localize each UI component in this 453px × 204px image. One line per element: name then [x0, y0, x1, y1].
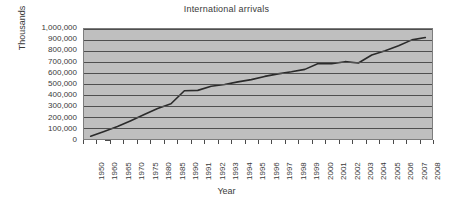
- y-axis-tick-label: 1,000,000: [41, 24, 77, 32]
- gridline: [84, 106, 432, 107]
- x-axis-tick-label: 1965: [124, 146, 133, 180]
- x-axis-tick-label: 1950: [97, 146, 106, 180]
- gridline: [84, 51, 432, 52]
- y-axis-tick-label: 700,000: [48, 58, 77, 66]
- y-axis-tick-label: 300,000: [48, 102, 77, 110]
- y-axis-tick-label: 400,000: [48, 91, 77, 99]
- x-axis-tick-label: 2006: [406, 146, 415, 180]
- x-axis-tick-mark: [204, 140, 205, 144]
- gridline: [84, 128, 432, 129]
- gridline: [84, 62, 432, 63]
- y-axis-tick-label: 600,000: [48, 69, 77, 77]
- x-axis-tick-label: 1995: [258, 146, 267, 180]
- x-axis-tick-mark: [325, 140, 326, 144]
- x-axis-tick-mark: [177, 140, 178, 144]
- x-axis-tick-mark: [164, 140, 165, 144]
- y-axis-tick-label: 900,000: [48, 35, 77, 43]
- x-axis-tick-label: 1994: [245, 146, 254, 180]
- x-axis-tick-label: 2003: [366, 146, 375, 180]
- x-axis-title: Year: [0, 186, 453, 196]
- x-axis-tick-mark: [285, 140, 286, 144]
- gridline: [84, 95, 432, 96]
- x-axis-tick-labels: 1950196019651970197519801985199019911992…: [83, 146, 433, 184]
- plot-area: [83, 28, 433, 140]
- x-axis-tick-label: 2000: [326, 146, 335, 180]
- x-axis-tick-mark: [137, 140, 138, 144]
- y-axis-tick-label: 200,000: [48, 114, 77, 122]
- x-axis-tick-mark: [271, 140, 272, 144]
- x-axis-tick-mark: [191, 140, 192, 144]
- y-axis-tick-label: 0: [73, 136, 77, 144]
- x-axis-tick-mark: [420, 140, 421, 144]
- x-axis-tick-mark: [258, 140, 259, 144]
- x-axis-tick-label: 1960: [110, 146, 119, 180]
- x-axis-tick-mark: [433, 140, 434, 144]
- x-axis-tick-label: 2008: [433, 146, 442, 180]
- x-axis-tick-mark: [123, 140, 124, 144]
- x-axis-tick-label: 1991: [204, 146, 213, 180]
- x-axis-tick-mark: [379, 140, 380, 144]
- gridline: [84, 73, 432, 74]
- gridline: [84, 40, 432, 41]
- chart-title: International arrivals: [0, 4, 453, 14]
- x-axis-tick-mark: [83, 140, 84, 144]
- x-axis-tick-label: 1999: [312, 146, 321, 180]
- x-axis-tick-mark: [231, 140, 232, 144]
- x-axis-tick-label: 1997: [285, 146, 294, 180]
- x-axis-tick-mark: [406, 140, 407, 144]
- x-axis-tick-mark: [150, 140, 151, 144]
- x-axis-tick-label: 2004: [379, 146, 388, 180]
- x-axis-tick-mark: [218, 140, 219, 144]
- x-axis-tick-label: 1992: [218, 146, 227, 180]
- x-axis-tick-label: 1990: [191, 146, 200, 180]
- x-axis-tick-label: 1996: [272, 146, 281, 180]
- x-axis-tick-label: 1998: [299, 146, 308, 180]
- gridline: [84, 29, 432, 30]
- x-axis-tick-marks: [83, 140, 433, 145]
- x-axis-tick-label: 2001: [339, 146, 348, 180]
- y-axis-tick-label: 100,000: [48, 125, 77, 133]
- x-axis-tick-label: 2007: [420, 146, 429, 180]
- gridline: [84, 117, 432, 118]
- y-axis-tick-label: 500,000: [48, 80, 77, 88]
- x-axis-tick-mark: [339, 140, 340, 144]
- gridline: [84, 84, 432, 85]
- x-axis-tick-label: 2005: [393, 146, 402, 180]
- x-axis-tick-label: 1970: [137, 146, 146, 180]
- x-axis-tick-mark: [352, 140, 353, 144]
- x-axis-tick-mark: [110, 140, 111, 144]
- x-axis-tick-label: 1975: [151, 146, 160, 180]
- y-axis-tick-labels: 1,000,000900,000800,000700,000600,000500…: [28, 24, 80, 140]
- x-axis-tick-label: 2002: [353, 146, 362, 180]
- y-axis-tick-label: 800,000: [48, 46, 77, 54]
- x-axis-tick-mark: [393, 140, 394, 144]
- x-axis-tick-mark: [245, 140, 246, 144]
- x-axis-tick-label: 1985: [178, 146, 187, 180]
- chart-container: International arrivals Thousands 1,000,0…: [0, 0, 453, 204]
- x-axis-tick-mark: [298, 140, 299, 144]
- x-axis-tick-mark: [96, 140, 97, 144]
- x-axis-tick-label: 1980: [164, 146, 173, 180]
- x-axis-tick-mark: [366, 140, 367, 144]
- x-axis-tick-label: 1993: [231, 146, 240, 180]
- x-axis-tick-mark: [312, 140, 313, 144]
